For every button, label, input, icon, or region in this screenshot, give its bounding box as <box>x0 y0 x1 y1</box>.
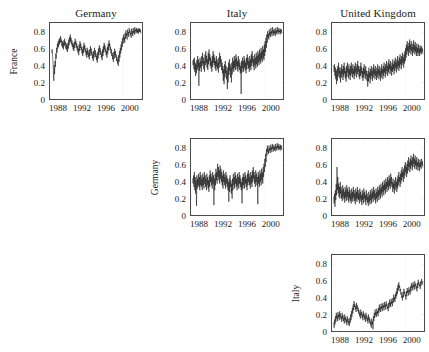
xtick-label: 2000 <box>396 336 428 345</box>
ytick-label: 0.2 <box>297 311 327 320</box>
plot-area-italy-uk <box>331 254 425 332</box>
ytick-label: 0.8 <box>297 260 327 269</box>
panel-italy-uk: Italy00.20.40.60.81988199219962000 <box>0 0 429 352</box>
ytick-label: 0.4 <box>297 294 327 303</box>
ytick-label: 0.6 <box>297 277 327 286</box>
ytick-label: 0 <box>297 328 327 337</box>
panel-matrix-figure: GermanyFrance00.20.40.60.819881992199620… <box>0 0 429 352</box>
